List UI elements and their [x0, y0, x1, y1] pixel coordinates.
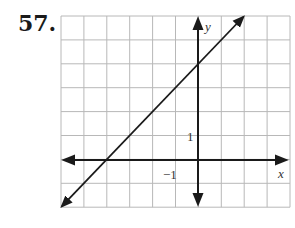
coordinate-graph: y x −1 1	[0, 0, 295, 228]
y-tick-label: 1	[187, 129, 194, 144]
x-axis-label: x	[277, 166, 284, 181]
y-axis-label: y	[203, 19, 211, 34]
x-tick-label: −1	[163, 167, 177, 182]
